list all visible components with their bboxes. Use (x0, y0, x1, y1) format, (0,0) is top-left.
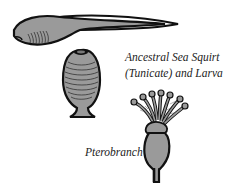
pterobranch-caption: Pterobranch (85, 147, 143, 159)
tunicate-caption: Ancestral Sea Squirt (Tunicate) and Larv… (125, 52, 223, 83)
larva-illustration (14, 16, 178, 45)
tunicate-caption-line2: (Tunicate) and Larva (125, 68, 223, 80)
figure-canvas: Ancestral Sea Squirt (Tunicate) and Larv… (0, 0, 226, 192)
adult-sea-squirt-illustration (63, 49, 100, 118)
tunicate-caption-line1: Ancestral Sea Squirt (125, 52, 223, 64)
pterobranch-illustration (131, 90, 188, 182)
